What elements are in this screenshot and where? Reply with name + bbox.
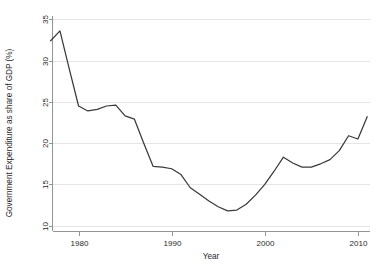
x-tick-label-1980: 1980	[71, 239, 89, 248]
y-tick-label-30: 30	[41, 57, 50, 66]
chart-container: 101520253035 1980199020002010 Government…	[0, 0, 378, 273]
line-chart-figure: 101520253035 1980199020002010 Government…	[0, 0, 378, 273]
y-tick-label-10: 10	[41, 222, 50, 231]
chart-background	[0, 0, 378, 273]
y-tick-label-15: 15	[41, 180, 50, 189]
x-tick-label-1990: 1990	[164, 239, 182, 248]
y-tick-label-25: 25	[41, 98, 50, 107]
x-tick-label-2010: 2010	[350, 239, 368, 248]
y-tick-label-35: 35	[41, 15, 50, 24]
y-axis-title: Government Expenditure as share of GDP (…	[5, 48, 14, 217]
x-tick-label-2000: 2000	[257, 239, 275, 248]
y-tick-label-20: 20	[41, 139, 50, 148]
x-axis-title: Year	[203, 252, 220, 261]
